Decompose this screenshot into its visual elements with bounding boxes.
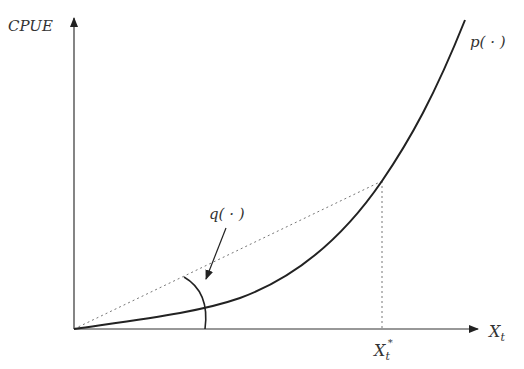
p-curve [74, 20, 465, 329]
pointer-arrow [206, 228, 226, 279]
angle-label: q( · ) [209, 205, 245, 223]
dotted-ray [74, 181, 382, 329]
angle-arc [184, 277, 206, 329]
curve-label: p( · ) [470, 33, 506, 51]
marker-label: Xt* [372, 337, 393, 363]
cpue-diagram: CPUE p( · ) q( · ) Xt Xt* [0, 0, 524, 369]
x-axis-label: Xt [487, 322, 505, 344]
y-axis-label: CPUE [8, 17, 53, 35]
